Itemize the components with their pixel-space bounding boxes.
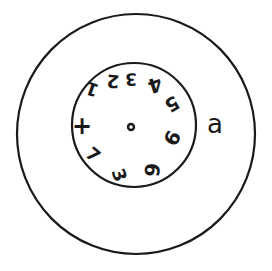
clock-number: 2 xyxy=(106,71,120,90)
clock-number: 1 xyxy=(83,78,101,99)
panel-label: a xyxy=(207,111,223,137)
clock-number: 9 xyxy=(160,127,184,149)
clock-drawing-figure: 1 2 3 4 5 9 6 3 7 + a xyxy=(0,0,272,271)
clock-number: 5 xyxy=(162,92,183,115)
clock-numbers-layer: 1 2 3 4 5 9 6 3 7 + a xyxy=(0,0,272,271)
clock-number: 3 xyxy=(125,70,137,87)
clock-number: 4 xyxy=(145,73,164,96)
clock-number: 6 xyxy=(141,162,162,178)
clock-number: 7 xyxy=(82,144,103,166)
clock-number: 3 xyxy=(108,166,129,184)
clock-number: + xyxy=(72,114,92,138)
